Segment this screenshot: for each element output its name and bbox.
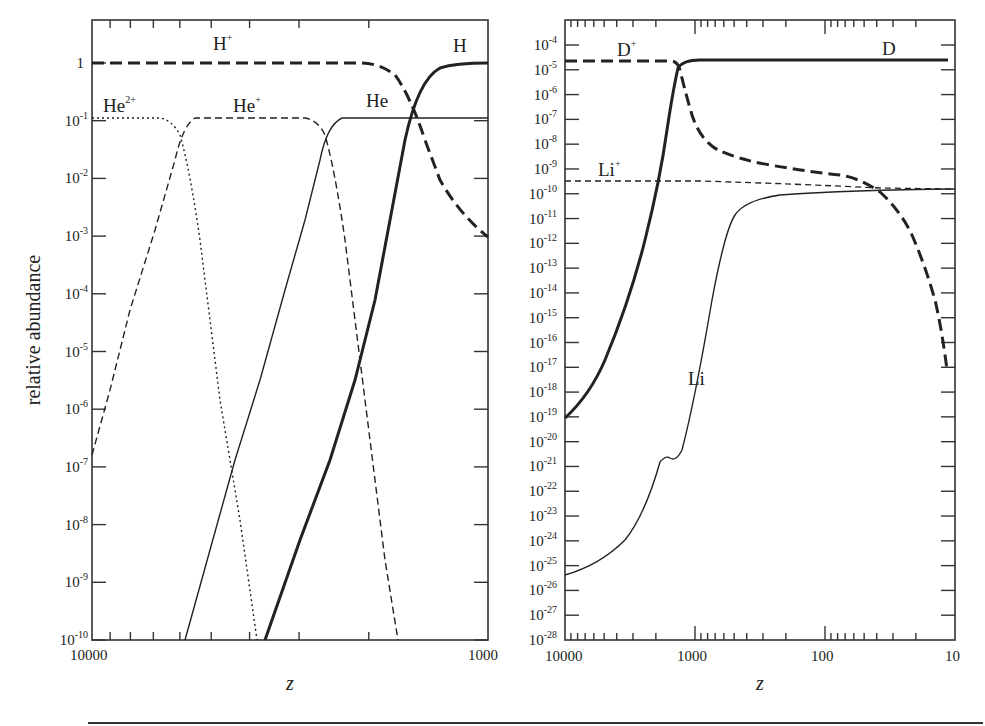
y-tick-label: 10-19 <box>529 406 557 425</box>
right-x-tick-10: 10 <box>945 648 960 664</box>
y-tick-label: 10-8 <box>534 133 557 152</box>
curve-h-plus <box>92 63 488 237</box>
y-tick-label: 10-2 <box>65 167 88 186</box>
y-tick-label: 10-13 <box>529 257 557 276</box>
y-tick-label: 10-27 <box>529 604 557 623</box>
right-x-tick-10000: 10000 <box>545 648 583 664</box>
left-axis-ticks <box>92 20 488 640</box>
curve-li <box>565 189 955 575</box>
right-plot-frame <box>565 20 955 640</box>
label-d: D <box>882 38 896 59</box>
y-tick-label: 10-23 <box>529 505 557 524</box>
y-tick-label: 10-18 <box>529 381 557 400</box>
y-tick-label: 10-5 <box>65 341 88 360</box>
y-tick-label: 10-3 <box>65 225 88 244</box>
y-tick-label: 10-28 <box>529 629 557 648</box>
curve-heplus <box>92 118 398 640</box>
y-tick-label: 10-26 <box>529 579 557 598</box>
y-tick-label: 10-21 <box>529 455 557 474</box>
left-plot-frame <box>92 20 488 640</box>
y-tick-label: 10-4 <box>534 34 557 53</box>
y-tick-label: 10-16 <box>529 332 557 351</box>
curve-d <box>565 60 948 418</box>
right-x-axis-title: z <box>755 672 764 694</box>
curve-d-plus <box>565 61 947 370</box>
right-y-tick-labels: 10-410-510-610-710-810-910-1010-1110-121… <box>529 34 557 648</box>
curve-he <box>185 118 488 640</box>
y-tick-label: 10-20 <box>529 431 557 450</box>
figure: 110-110-210-310-410-510-610-710-810-910-… <box>0 0 985 726</box>
y-tick-label: 10-24 <box>529 530 557 549</box>
y-tick-label: 10-10 <box>529 183 557 202</box>
curve-h <box>265 63 488 640</box>
y-tick-label: 10-10 <box>60 629 88 648</box>
y-tick-label: 10-6 <box>534 84 557 103</box>
label-h: H <box>453 35 467 56</box>
right-x-tick-1000: 1000 <box>677 648 707 664</box>
y-tick-label: 10-1 <box>65 110 88 129</box>
label-h-plus: H+ <box>213 32 233 54</box>
label-he2plus: He2+ <box>103 94 136 116</box>
right-axis-ticks <box>565 20 955 640</box>
y-tick-label: 10-11 <box>529 208 557 227</box>
label-li: Li <box>688 368 705 389</box>
y-tick-label: 10-5 <box>534 59 557 78</box>
y-tick-label: 10-7 <box>534 108 557 127</box>
y-tick-label: 10-9 <box>65 571 88 590</box>
label-li-plus: Li+ <box>598 158 621 180</box>
label-d-plus: D+ <box>617 38 637 60</box>
curve-he2plus <box>92 118 257 640</box>
y-tick-label: 10-6 <box>65 398 88 417</box>
label-heplus: He+ <box>233 94 261 116</box>
left-x-tick-1000: 1000 <box>468 647 498 663</box>
left-x-axis-title: z <box>285 672 294 694</box>
right-panel: 10-410-510-610-710-810-910-1010-1110-121… <box>529 20 960 694</box>
y-tick-label: 10-17 <box>529 356 557 375</box>
y-tick-label: 10-9 <box>534 158 557 177</box>
y-tick-label: 10-7 <box>65 456 88 475</box>
label-he: He <box>366 90 388 111</box>
y-tick-label: 10-4 <box>65 283 88 302</box>
y-tick-label: 10-25 <box>529 555 557 574</box>
curve-li-plus <box>565 181 955 189</box>
y-tick-label: 10-14 <box>529 282 557 301</box>
left-y-tick-labels: 110-110-210-310-410-510-610-710-810-910-… <box>60 55 88 648</box>
left-panel: 110-110-210-310-410-510-610-710-810-910-… <box>22 20 498 694</box>
y-tick-label: 10-8 <box>65 514 88 533</box>
y-tick-label: 1 <box>77 55 85 71</box>
left-x-tick-10000: 10000 <box>70 647 108 663</box>
y-tick-label: 10-22 <box>529 480 557 499</box>
right-x-tick-100: 100 <box>811 648 834 664</box>
y-tick-label: 10-15 <box>529 307 557 326</box>
y-tick-label: 10-12 <box>529 232 557 251</box>
y-axis-title: relative abundance <box>22 255 44 406</box>
